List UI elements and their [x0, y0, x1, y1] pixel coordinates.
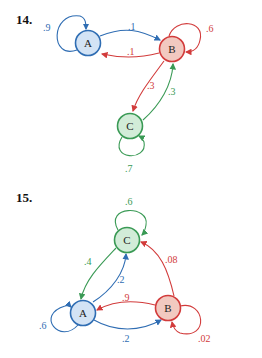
- node-15-a-label: A: [79, 307, 87, 319]
- edge-15-a-b-label: .2: [122, 333, 130, 344]
- edge-15-b-b-label: .02: [198, 333, 211, 344]
- edge-15-b-c: [141, 242, 174, 296]
- edge-15-c-a-label: .4: [84, 256, 92, 267]
- diagram-15: A B C .6 .4 .2 .08 .9 .2 .6 .02: [39, 196, 211, 344]
- edge-15-a-a-label: .6: [39, 320, 47, 331]
- node-15-c-label: C: [123, 234, 130, 246]
- edge-14-b-b-label: .6: [206, 23, 214, 34]
- node-15-b-label: B: [164, 302, 171, 314]
- edge-14-b-c-label: .3: [147, 80, 155, 91]
- diagram-14: A B C .9 .1 .1 .6 .3 .3 .7: [43, 16, 214, 174]
- edge-15-c-c-label: .6: [125, 196, 133, 207]
- edge-14-c-b-label: .3: [168, 86, 176, 97]
- edge-14-a-a-label: .9: [43, 22, 51, 33]
- edge-14-c-c-label: .7: [125, 163, 133, 174]
- node-14-b-label: B: [168, 43, 175, 55]
- edge-14-a-b-label: .1: [128, 21, 136, 32]
- edge-15-a-c-label: .2: [117, 274, 125, 285]
- edge-15-b-a-label: .9: [122, 292, 130, 303]
- edge-15-a-b: [94, 320, 161, 329]
- node-14-a-label: A: [84, 37, 92, 49]
- edge-15-b-c-label: .08: [165, 254, 178, 265]
- markov-diagrams: A B C .9 .1 .1 .6 .3 .3 .7 A B C .6: [0, 0, 262, 358]
- node-14-c-label: C: [126, 120, 133, 132]
- edge-14-b-a-label: .1: [127, 46, 135, 57]
